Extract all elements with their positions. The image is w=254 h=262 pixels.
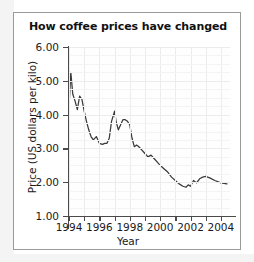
y-axis-tick-label: 1.00 [19, 211, 59, 222]
y-axis-tick [63, 148, 69, 149]
x-axis-line [68, 216, 236, 217]
gridline-horizontal-minor [69, 89, 230, 90]
y-axis-tick-label: 5.00 [19, 76, 59, 87]
gridline-horizontal-minor [69, 72, 230, 73]
y-axis-tick [63, 47, 69, 48]
gridline-horizontal-minor [69, 132, 230, 133]
y-axis-tick-label: 6.00 [19, 42, 59, 53]
gridline-horizontal-minor [69, 191, 230, 192]
chart-screenshot: How coffee prices have changed 6.005.004… [0, 0, 254, 262]
gridline-horizontal-minor [69, 140, 230, 141]
x-axis-tick [206, 216, 207, 221]
gridline-horizontal-minor [69, 123, 230, 124]
y-axis-tick-label: 4.00 [19, 110, 59, 121]
gridline-horizontal-minor [69, 106, 230, 107]
page-edge-left [0, 0, 14, 262]
gridline-horizontal-minor [69, 98, 230, 99]
gridline-horizontal-minor [69, 157, 230, 158]
gridline-horizontal-minor [69, 55, 230, 56]
y-axis-tick [63, 115, 69, 116]
y-axis-tick-label: 3.00 [19, 143, 59, 154]
y-axis-tick [63, 81, 69, 82]
y-axis-line [68, 46, 69, 229]
figure-frame: How coffee prices have changed 6.005.004… [13, 12, 241, 250]
gridline-horizontal-minor [69, 199, 230, 200]
page-edge-bottom [0, 254, 254, 262]
chart-title: How coffee prices have changed [14, 20, 242, 33]
gridline-horizontal-minor [69, 64, 230, 65]
gridline-horizontal-minor [69, 165, 230, 166]
y-axis-tick [63, 182, 69, 183]
gridline-horizontal-minor [69, 208, 230, 209]
y-axis-tick-label: 2.00 [19, 177, 59, 188]
gridline-horizontal-minor [69, 174, 230, 175]
y-axis-title: Price (US dollars per kilo) [26, 47, 38, 207]
plot-area [69, 47, 230, 216]
x-axis-title: Year [14, 235, 242, 247]
x-axis-tick-label: 2004 [201, 222, 241, 233]
